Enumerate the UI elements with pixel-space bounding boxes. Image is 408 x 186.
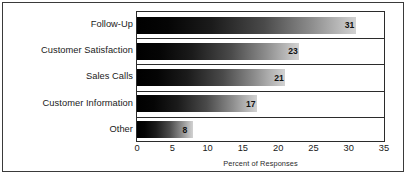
bar	[137, 69, 285, 86]
x-axis-tick-label: 20	[273, 143, 283, 153]
x-axis-tick-label: 25	[308, 143, 318, 153]
bar-value-label: 8	[182, 125, 187, 135]
category-label-row: Follow-Up	[6, 11, 133, 37]
plot-inner: 312321178	[137, 12, 384, 141]
category-label: Other	[109, 124, 133, 134]
bar	[137, 95, 257, 112]
bar-chart-figure: Follow-UpCustomer SatisfactionSales Call…	[0, 0, 408, 186]
x-axis-tick-label: 0	[134, 143, 139, 153]
x-axis-tick-label: 30	[344, 143, 354, 153]
category-label-row: Other	[6, 116, 133, 142]
row-separator	[137, 38, 384, 39]
category-label: Sales Calls	[86, 71, 133, 81]
category-label-row: Customer Information	[6, 90, 133, 116]
bar-value-label: 21	[274, 73, 284, 83]
plot-area: 312321178	[136, 11, 385, 142]
x-axis-tick-labels: 05101520253035	[136, 143, 385, 156]
bar-value-label: 31	[345, 20, 355, 30]
row-separator	[137, 64, 384, 65]
bar-value-label: 23	[288, 46, 298, 56]
bar	[137, 17, 356, 34]
category-label: Customer Information	[43, 98, 133, 108]
x-axis-title: Percent of Responses	[136, 159, 385, 168]
bar	[137, 43, 299, 60]
x-axis-tick-label: 15	[238, 143, 248, 153]
category-axis: Follow-UpCustomer SatisfactionSales Call…	[6, 11, 133, 142]
category-label: Follow-Up	[91, 19, 133, 29]
category-label: Customer Satisfaction	[41, 45, 133, 55]
bar-value-label: 17	[246, 99, 256, 109]
x-axis-tick-label: 35	[379, 143, 389, 153]
category-label-row: Customer Satisfaction	[6, 37, 133, 63]
row-separator	[137, 117, 384, 118]
x-axis-tick-label: 5	[170, 143, 175, 153]
row-separator	[137, 91, 384, 92]
category-label-row: Sales Calls	[6, 63, 133, 89]
x-axis-tick-label: 10	[202, 143, 212, 153]
